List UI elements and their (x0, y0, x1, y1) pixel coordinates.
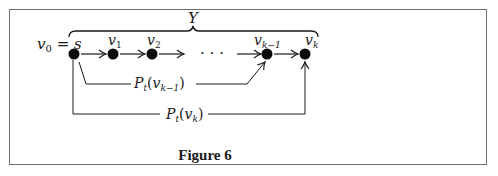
node-label-v1: v1 (108, 32, 122, 50)
node-label-vk: vk (305, 32, 318, 50)
node-vk (300, 49, 311, 60)
ellipsis: · · · (200, 44, 224, 62)
path-pt-vk-1-right (196, 62, 265, 84)
path-label-pt-vk-1: Pt(vk−1) (133, 75, 185, 93)
path-pt-vk-1-left (79, 62, 131, 84)
path-pt-vk-right (208, 62, 305, 114)
figure-caption: Figure 6 (0, 147, 410, 164)
brace-y (69, 26, 318, 37)
path-label-pt-vk: Pt(vk) (165, 106, 203, 124)
node-label-vk-1: vk−1 (254, 32, 281, 50)
brace-label-y: Y (188, 9, 200, 27)
node-v1 (108, 49, 119, 60)
node-v2 (147, 49, 158, 60)
node-s (69, 49, 80, 60)
node-vk-1 (262, 49, 273, 60)
node-label-v2: v2 (147, 32, 161, 50)
